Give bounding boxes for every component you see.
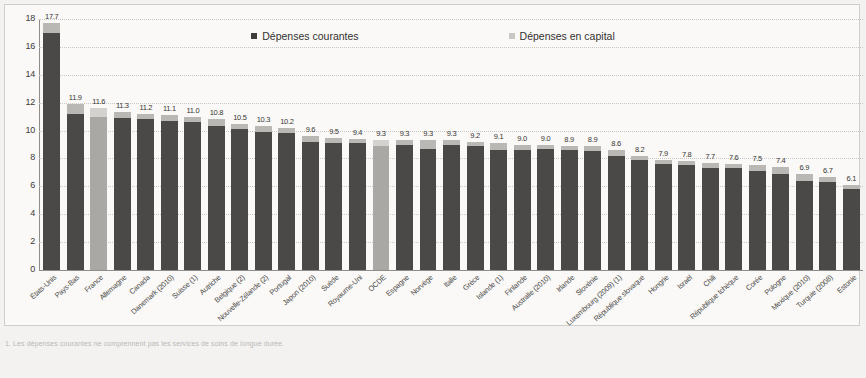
bar-stack [678, 161, 695, 270]
bar-stack [819, 177, 836, 270]
bar-segment-current [373, 146, 390, 270]
bar-stack [208, 119, 225, 270]
bar-segment-current [608, 156, 625, 270]
bar-group[interactable]: 7.6 [722, 19, 746, 270]
bar-group[interactable]: 9.4 [346, 19, 370, 270]
bar-segment-current [631, 160, 648, 270]
bar-group[interactable]: 9.0 [510, 19, 534, 270]
bar-segment-current [208, 126, 225, 270]
bar-segment-current [90, 117, 107, 270]
bar-segment-current [137, 119, 154, 270]
bar-stack [467, 142, 484, 270]
bar-group[interactable]: 10.8 [205, 19, 229, 270]
y-tick-label: 2 [9, 236, 35, 246]
bar-value-label: 9.2 [470, 131, 480, 140]
bar-stack [43, 23, 60, 270]
bar-group[interactable]: 9.0 [534, 19, 558, 270]
bar-stack [161, 115, 178, 270]
bar-group[interactable]: 11.3 [111, 19, 135, 270]
bar-group[interactable]: 7.9 [651, 19, 675, 270]
bar-value-label: 7.5 [752, 154, 762, 163]
x-tick: Australie (2010) [534, 272, 558, 332]
x-tick-label: États-Unis [28, 273, 58, 301]
bar-stack [584, 146, 601, 270]
bar-value-label: 11.3 [116, 101, 129, 110]
bar-group[interactable]: 9.3 [440, 19, 464, 270]
bar-value-label: 9.4 [353, 128, 363, 137]
bar-group[interactable]: 9.6 [299, 19, 323, 270]
bar-stack [702, 163, 719, 270]
x-tick: Espagne [393, 272, 417, 332]
x-tick: Norvège [417, 272, 441, 332]
bar-segment-current [584, 151, 601, 270]
bar-group[interactable]: 9.3 [393, 19, 417, 270]
bar-value-label: 7.4 [776, 156, 786, 165]
bar-segment-current [467, 146, 484, 270]
bar-group[interactable]: 9.5 [322, 19, 346, 270]
bar-group[interactable]: 9.1 [487, 19, 511, 270]
bar-segment-capital [796, 174, 813, 181]
bar-stack [325, 138, 342, 270]
bar-group[interactable]: 17.7 [40, 19, 64, 270]
bar-group[interactable]: 11.0 [181, 19, 205, 270]
bar-value-label: 8.2 [635, 145, 645, 154]
bar-stack [137, 114, 154, 270]
bar-group[interactable]: 7.4 [769, 19, 793, 270]
bar-group[interactable]: 10.2 [275, 19, 299, 270]
bar-group[interactable]: 11.1 [158, 19, 182, 270]
x-tick: Israël [676, 272, 700, 332]
bar-segment-current [43, 33, 60, 270]
bar-group[interactable]: 6.9 [793, 19, 817, 270]
bar-group[interactable]: 6.1 [840, 19, 864, 270]
bar-group[interactable]: 7.5 [745, 19, 769, 270]
bar-segment-capital [490, 143, 507, 150]
x-tick: Suisse (1) [181, 272, 205, 332]
x-tick: Corée [746, 272, 770, 332]
plot-area: 024681012141618 17.711.911.611.311.211.1… [39, 19, 863, 270]
bar-segment-current [302, 142, 319, 270]
x-tick-label: Corée [744, 273, 764, 292]
x-tick: Turquie (2008) [817, 272, 841, 332]
bar-group[interactable]: 11.2 [134, 19, 158, 270]
bar-group[interactable]: 10.3 [252, 19, 276, 270]
bar-value-label: 8.9 [588, 135, 598, 144]
bar-value-label: 7.9 [658, 149, 668, 158]
bar-value-label: 6.1 [847, 174, 857, 183]
bar-stack [537, 145, 554, 270]
bar-group[interactable]: 8.6 [604, 19, 628, 270]
x-tick: États-Unis [40, 272, 64, 332]
bar-segment-capital [43, 23, 60, 33]
bar-stack [302, 136, 319, 270]
bar-group[interactable]: 9.3 [416, 19, 440, 270]
bar-group[interactable]: 9.3 [369, 19, 393, 270]
bar-segment-current [255, 132, 272, 270]
y-tick-label: 0 [9, 264, 35, 274]
bar-stack [725, 164, 742, 270]
y-tick-label: 18 [9, 13, 35, 23]
x-tick-label: Israël [675, 273, 694, 291]
bar-group[interactable]: 11.9 [64, 19, 88, 270]
bar-segment-capital [67, 104, 84, 114]
chart-footnote: 1. Les dépenses courantes ne comprennent… [5, 340, 705, 347]
bar-group[interactable]: 7.7 [698, 19, 722, 270]
bar-segment-current [749, 171, 766, 270]
bar-group[interactable]: 9.2 [463, 19, 487, 270]
bar-group[interactable]: 10.5 [228, 19, 252, 270]
bar-value-label: 9.0 [541, 134, 551, 143]
bar-group[interactable]: 7.8 [675, 19, 699, 270]
y-tick-label: 16 [9, 41, 35, 51]
bar-group[interactable]: 8.9 [557, 19, 581, 270]
bar-segment-current [349, 143, 366, 270]
bar-group[interactable]: 6.7 [816, 19, 840, 270]
bar-segment-current [537, 149, 554, 270]
bar-group[interactable]: 11.6 [87, 19, 111, 270]
bar-segment-capital [90, 108, 107, 116]
bar-value-label: 11.0 [186, 106, 199, 115]
x-tick: Grèce [464, 272, 488, 332]
bar-group[interactable]: 8.9 [581, 19, 605, 270]
bar-segment-current [725, 168, 742, 270]
bar-value-label: 9.3 [376, 129, 386, 138]
bar-stack [514, 145, 531, 270]
bar-stack [420, 140, 437, 270]
bar-group[interactable]: 8.2 [628, 19, 652, 270]
